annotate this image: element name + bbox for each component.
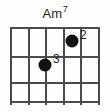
string-line-5 — [28, 27, 30, 105]
finger-number-3: 3 — [53, 53, 60, 65]
fret-line-2 — [10, 82, 100, 84]
fretboard-grid: 2 3 — [10, 27, 100, 101]
fret-line-3 — [10, 101, 100, 103]
chord-root-label: Am — [42, 6, 62, 21]
chord-diagram-card: Am7 2 3 — [0, 0, 110, 112]
finger-dot-3 — [39, 59, 52, 72]
finger-dot-2 — [66, 35, 79, 48]
finger-number-2: 2 — [80, 29, 87, 41]
chord-name-title: Am7 — [0, 3, 110, 21]
chord-extension-label: 7 — [63, 4, 68, 14]
string-line-6 — [10, 27, 12, 105]
string-line-1 — [98, 27, 100, 105]
